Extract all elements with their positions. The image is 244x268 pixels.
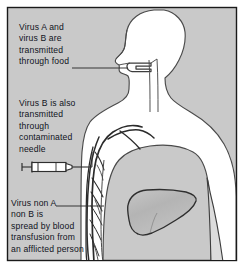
annotation-food-line-2: virus B are [19, 33, 69, 44]
annotation-blood-line-3: spread by blood [11, 221, 84, 232]
syringe-barrel [32, 163, 66, 172]
annotation-food-line-3: transmitted [19, 45, 69, 56]
annotation-needle-line-2: transmitted [19, 109, 76, 120]
annotation-blood-line-5: an afflicted person [11, 244, 84, 255]
annotation-food: Virus A and virus B are transmitted thro… [19, 22, 69, 68]
annotation-blood-line-2: non B is [11, 209, 84, 220]
annotation-blood-line-1: Virus non A [11, 198, 84, 209]
annotation-food-line-1: Virus A and [19, 22, 69, 33]
annotation-needle-line-3: through [19, 121, 76, 132]
annotation-blood-line-4: transfusion from [11, 232, 84, 243]
annotation-blood: Virus non A non B is spread by blood tra… [11, 198, 84, 255]
hepatitis-transmission-figure: Virus A and virus B are transmitted thro… [0, 0, 244, 268]
annotation-needle-line-5: needle [19, 144, 76, 155]
annotation-needle: Virus B is also transmitted through cont… [19, 98, 76, 155]
annotation-needle-line-4: contaminated [19, 132, 76, 143]
annotation-food-line-4: through food [19, 56, 69, 67]
annotation-needle-line-1: Virus B is also [19, 98, 76, 109]
